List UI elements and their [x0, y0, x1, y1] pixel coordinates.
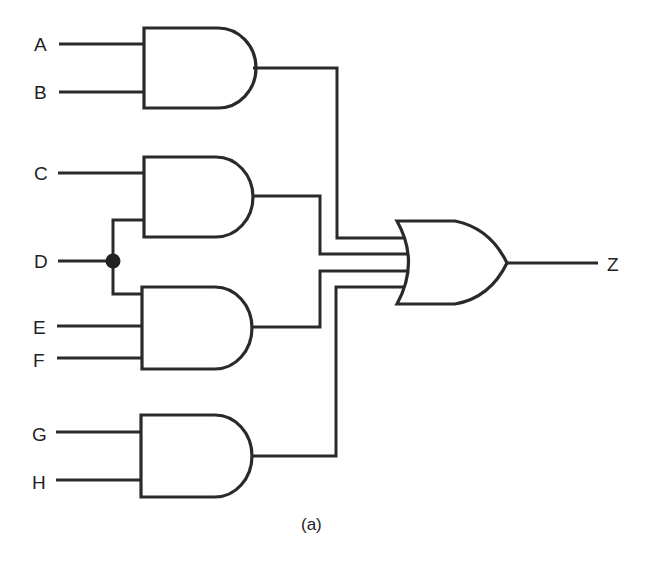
- input-label-c: C: [34, 163, 48, 184]
- input-label-e: E: [33, 317, 46, 338]
- input-label-b: B: [34, 82, 47, 103]
- input-label-g: G: [32, 424, 47, 445]
- and-gate-1: [144, 28, 256, 108]
- input-label-d: D: [34, 251, 48, 272]
- and-gate-4: [141, 415, 252, 497]
- input-wires: [56, 44, 145, 480]
- or-gate: [397, 221, 507, 304]
- junction-dot: [106, 254, 121, 269]
- gate-output-wires: [251, 68, 410, 456]
- input-label-a: A: [34, 34, 47, 55]
- and-gate-2: [144, 157, 253, 237]
- input-label-f: F: [33, 350, 45, 371]
- input-label-h: H: [32, 472, 46, 493]
- figure-caption: (a): [301, 515, 322, 534]
- logic-circuit-diagram: A B C D E F G H Z (a): [0, 0, 654, 581]
- and-gate-3: [142, 287, 252, 369]
- output-label-z: Z: [607, 254, 619, 275]
